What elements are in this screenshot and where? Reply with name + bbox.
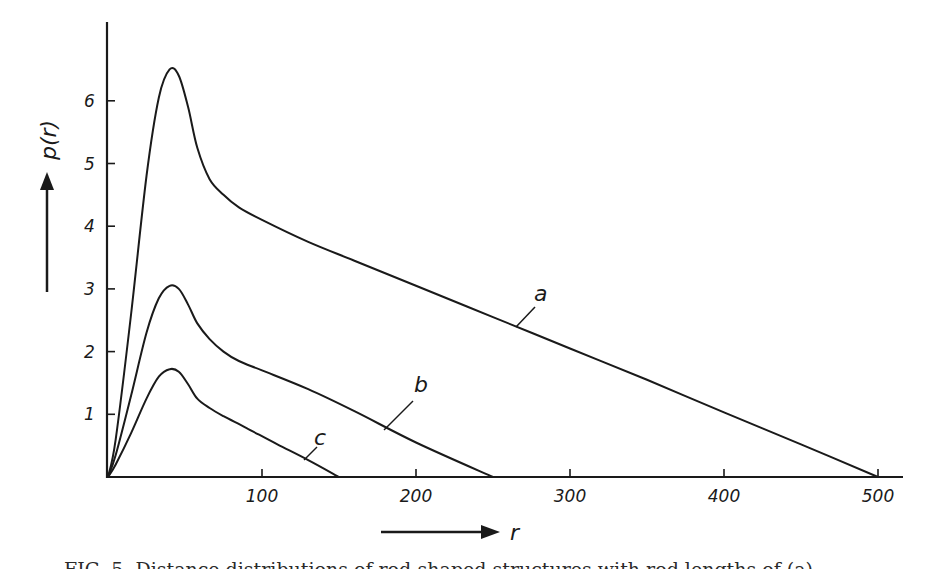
curve-a-leader (516, 307, 535, 327)
curve-a-label: a (534, 281, 547, 306)
curve-b-annotation: b (384, 372, 428, 430)
y-tick-label: 6 (84, 91, 95, 111)
y-axis-label: p(r) (36, 120, 61, 161)
y-arrow-head-icon (40, 172, 54, 190)
x-tick-label: 100 (246, 486, 278, 506)
curve-c-label: c (314, 425, 326, 450)
y-ticks: 123456 (84, 91, 115, 425)
plot-area: 123456 100200300400500 a b c p(r) r (0, 0, 932, 569)
x-ticks: 100200300400500 (246, 469, 894, 506)
x-tick-label: 400 (708, 486, 740, 506)
x-tick-label: 500 (862, 486, 894, 506)
y-tick-label: 4 (84, 216, 95, 236)
x-arrow-head-icon (481, 525, 500, 539)
x-axis-label: r (510, 520, 521, 545)
y-tick-label: 2 (84, 342, 95, 362)
x-tick-label: 200 (400, 486, 432, 506)
figure-caption: FIG. 5. Distance distributions of rod-sh… (64, 556, 924, 569)
y-tick-label: 1 (84, 404, 95, 424)
curve-b-label: b (414, 372, 428, 397)
curve-b-leader (384, 401, 413, 430)
curve-b (108, 285, 493, 477)
x-tick-label: 300 (554, 486, 586, 506)
curve-c (108, 369, 339, 477)
distance-distribution-figure: 123456 100200300400500 a b c p(r) r FIG.… (0, 0, 932, 569)
curve-c-annotation: c (304, 425, 326, 460)
y-tick-label: 3 (84, 279, 95, 299)
curve-a-annotation: a (516, 281, 547, 327)
curves (108, 68, 878, 477)
y-tick-label: 5 (84, 154, 95, 174)
